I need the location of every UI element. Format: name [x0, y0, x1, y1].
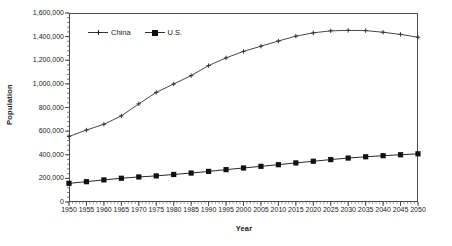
us-marker-icon: [145, 28, 165, 37]
y-tick-label: 400,000: [18, 151, 64, 159]
china-marker-icon: [88, 28, 108, 37]
y-tick-label: 1,200,000: [18, 56, 64, 64]
y-tick-label: 600,000: [18, 127, 64, 135]
y-tick-label: 200,000: [18, 174, 64, 182]
chart-legend: China U.S.: [88, 28, 182, 37]
plot-area: [69, 13, 418, 202]
y-tick-label: 1,400,000: [18, 33, 64, 41]
y-tick-label: 800,000: [18, 104, 64, 112]
y-tick-label: 1,600,000: [18, 9, 64, 17]
legend-entry-us: U.S.: [145, 28, 183, 37]
population-line-chart: Population 0200,000400,000600,000800,000…: [0, 0, 452, 246]
x-tick-label: 2050: [405, 205, 431, 214]
y-axis-title-text: Population: [5, 84, 14, 125]
x-axis-title-text: Year: [236, 224, 253, 233]
y-axis-tick-labels: 0200,000400,000600,000800,0001,000,0001,…: [16, 13, 64, 202]
legend-entry-china: China: [88, 28, 131, 37]
y-tick-label: 1,000,000: [18, 80, 64, 88]
legend-label-us: U.S.: [168, 28, 183, 37]
legend-label-china: China: [111, 28, 131, 37]
x-axis-title: Year: [69, 224, 419, 233]
x-axis-tick-labels: 1950195519601965197019751980198519901995…: [69, 205, 418, 219]
